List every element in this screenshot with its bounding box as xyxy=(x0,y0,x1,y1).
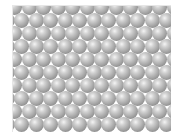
sphere xyxy=(130,117,145,132)
sphere xyxy=(101,117,116,132)
sphere xyxy=(145,117,160,132)
sphere-lattice-image xyxy=(12,5,171,132)
sphere xyxy=(29,117,44,132)
sphere xyxy=(58,117,73,132)
sphere xyxy=(43,117,58,132)
sphere xyxy=(14,117,29,132)
sphere xyxy=(72,117,87,132)
sphere xyxy=(116,117,131,132)
sphere xyxy=(159,117,171,132)
sphere xyxy=(87,117,102,132)
